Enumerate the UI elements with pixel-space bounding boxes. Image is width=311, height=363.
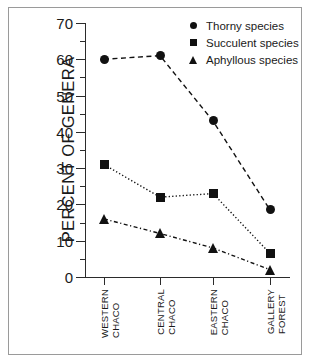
marker-shape: [190, 39, 197, 46]
tick-mark: [80, 41, 85, 42]
y-tick-label: 10: [56, 232, 73, 249]
tick-mark: [76, 204, 85, 205]
y-tick-label: 40: [56, 123, 73, 140]
data-point-circle-marker-icon: [209, 116, 218, 125]
legend-item-thorny-species: Thorny species: [186, 17, 299, 34]
x-tick-label-line: CHACO: [111, 289, 122, 338]
x-tick-label-line: FOREST: [277, 289, 288, 334]
data-point-circle-marker-icon: [156, 51, 165, 60]
x-tick-label-line: CENTRAL: [156, 289, 167, 335]
data-point-circle-marker-icon: [100, 55, 109, 64]
series-line-aphyllous-species: [104, 219, 270, 270]
legend-label: Thorny species: [206, 20, 284, 32]
y-tick-label: 60: [56, 51, 73, 68]
tick-mark: [76, 241, 85, 242]
triangle-marker-icon: [186, 56, 200, 64]
circle-marker-icon: [186, 22, 200, 29]
data-point-circle-marker-icon: [266, 205, 275, 214]
tick-mark: [80, 223, 85, 224]
x-tick-label-gallery-forest: GALLERYFOREST: [266, 289, 287, 334]
series-line-thorny-species: [104, 56, 270, 210]
data-point-triangle-marker-icon: [155, 228, 165, 238]
x-tick-label-line: EASTERN: [209, 289, 220, 335]
tick-mark: [80, 259, 85, 260]
tick-mark: [76, 59, 85, 60]
tick-mark: [76, 168, 85, 169]
tick-mark: [76, 277, 85, 278]
tick-mark: [80, 186, 85, 187]
y-tick-label: 30: [56, 160, 73, 177]
tick-mark: [76, 96, 85, 97]
tick-mark: [80, 150, 85, 151]
tick-mark: [80, 114, 85, 115]
data-point-triangle-marker-icon: [265, 265, 275, 275]
chart-legend: Thorny speciesSucculent speciesAphyllous…: [186, 17, 299, 68]
legend-item-succulent-species: Succulent species: [186, 34, 299, 51]
data-point-triangle-marker-icon: [99, 214, 109, 224]
legend-item-aphyllous-species: Aphyllous species: [186, 51, 299, 68]
data-point-square-marker-icon: [156, 193, 165, 202]
marker-shape: [189, 56, 197, 64]
x-tick-label-line: GALLERY: [266, 289, 277, 334]
x-tick-label-line: CHACO: [220, 289, 231, 335]
x-tick-mark: [104, 277, 105, 285]
tick-mark: [76, 23, 85, 24]
data-point-square-marker-icon: [100, 160, 109, 169]
x-tick-label-line: WESTERN: [100, 289, 111, 338]
x-tick-mark: [213, 277, 214, 285]
x-tick-label-western-chaco: WESTERNCHACO: [100, 289, 121, 338]
x-tick-label-central-chaco: CENTRALCHACO: [156, 289, 177, 335]
y-tick-label: 70: [56, 15, 73, 32]
tick-mark: [76, 132, 85, 133]
x-tick-label-line: CHACO: [167, 289, 178, 335]
data-point-square-marker-icon: [209, 189, 218, 198]
square-marker-icon: [186, 39, 200, 46]
y-tick-label: 20: [56, 196, 73, 213]
series-line-succulent-species: [104, 165, 270, 254]
x-axis-line: [85, 277, 290, 278]
data-point-square-marker-icon: [266, 249, 275, 258]
marker-shape: [190, 22, 197, 29]
tick-mark: [80, 77, 85, 78]
data-point-triangle-marker-icon: [208, 243, 218, 253]
y-tick-label: 50: [56, 87, 73, 104]
x-tick-mark: [160, 277, 161, 285]
legend-label: Aphyllous species: [206, 54, 298, 66]
y-tick-label: 0: [65, 269, 73, 286]
chart-figure: PERCENT OF GENERA 010203040506070 WESTER…: [0, 0, 311, 363]
x-tick-mark: [270, 277, 271, 285]
x-tick-label-eastern-chaco: EASTERNCHACO: [209, 289, 230, 335]
legend-label: Succulent species: [206, 37, 299, 49]
